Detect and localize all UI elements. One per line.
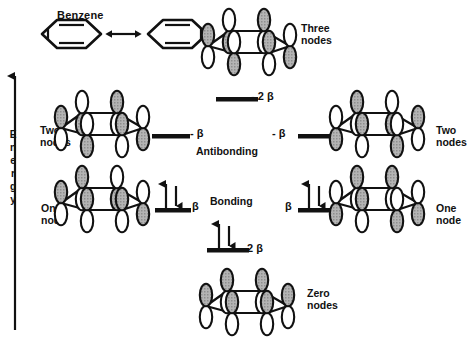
benzene-structure-right bbox=[148, 20, 207, 48]
diagram-graphics-layer bbox=[0, 0, 476, 341]
p-orbital bbox=[202, 24, 214, 68]
electron-pair-one-node-right bbox=[309, 184, 319, 208]
ring-skeleton bbox=[206, 291, 288, 313]
orbital-ring-mo-one-node-left bbox=[55, 166, 149, 232]
p-orbital bbox=[282, 284, 294, 328]
orbital-ring-mo-three-nodes bbox=[202, 9, 296, 75]
p-orbital bbox=[137, 106, 149, 150]
energy-level-two-nodes-left bbox=[152, 134, 190, 139]
p-orbital bbox=[412, 106, 424, 150]
ring-skeleton bbox=[208, 31, 290, 53]
energy-level-zero-nodes bbox=[207, 248, 249, 253]
ring-skeleton bbox=[336, 113, 418, 135]
electron-pair-one-node-left bbox=[166, 184, 176, 208]
p-orbital bbox=[330, 106, 342, 150]
p-orbital bbox=[330, 181, 342, 225]
p-orbital bbox=[137, 181, 149, 225]
orbital-ring-mo-two-nodes-right bbox=[330, 91, 424, 157]
energy-level-three-nodes bbox=[216, 97, 258, 102]
orbital-ring-mo-two-nodes-left bbox=[55, 91, 149, 157]
p-orbital bbox=[284, 24, 296, 68]
benzene-structure-left bbox=[42, 20, 101, 48]
benzene-resonance-structures bbox=[42, 20, 207, 48]
electron-pairs bbox=[166, 184, 319, 248]
energy-level-one-node-left bbox=[155, 208, 191, 213]
orbital-ring-mo-one-node-right bbox=[330, 166, 424, 232]
energy-levels bbox=[152, 97, 336, 253]
orbital-ring-mo-zero-nodes bbox=[200, 269, 294, 335]
orbital-ring-pictures bbox=[55, 9, 424, 335]
ring-skeleton bbox=[61, 113, 143, 135]
electron-pair-zero-nodes bbox=[219, 224, 229, 248]
p-orbital bbox=[200, 284, 212, 328]
ring-skeleton bbox=[61, 188, 143, 210]
p-orbital bbox=[55, 181, 67, 225]
p-orbital bbox=[55, 106, 67, 150]
ring-skeleton bbox=[336, 188, 418, 210]
mo-diagram-figure: Benzene E n e r g y Three nodes Two node… bbox=[0, 0, 476, 341]
p-orbital bbox=[412, 181, 424, 225]
